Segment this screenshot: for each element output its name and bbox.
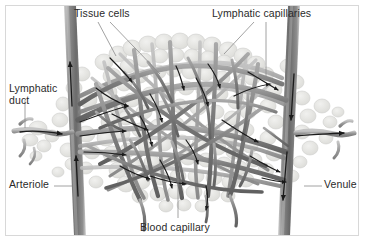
leader-tissue-cells-1 [98, 22, 116, 56]
label-lymphatic-capillaries: Lymphatic capillaries [212, 8, 311, 20]
label-tissue-cells: Tissue cells [74, 8, 130, 20]
label-blood-capillary: Blood capillary [140, 222, 210, 234]
label-lymphatic-duct: Lymphatic duct [9, 83, 57, 106]
capillary-bed-figure: Tissue cells Lymphatic capillaries Lymph… [0, 0, 365, 242]
label-arteriole: Arteriole [9, 179, 49, 191]
diagram-artwork [0, 0, 365, 242]
label-venule: Venule [324, 179, 357, 191]
